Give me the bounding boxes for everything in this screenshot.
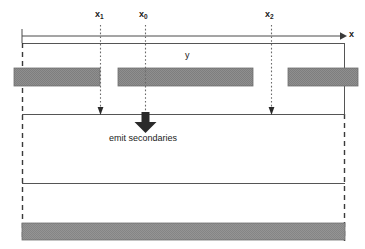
marker-x1-arrowhead [98,107,104,115]
emit-secondaries-arrow [135,112,157,133]
diagram-canvas: x1 x0 x2 x y emit secondaries [0,0,365,249]
marker-label-x1-subscript: 1 [100,13,104,20]
marker-x2-group [269,25,275,115]
marker-label-x2-subscript: 2 [270,13,274,20]
gray-bar-bottom [22,223,345,240]
y-axis-label: y [185,51,190,60]
gray-bar-left [14,68,100,86]
gray-bar-right [288,68,358,86]
x-axis-group [22,29,347,43]
gray-bars-group [14,68,358,240]
emit-secondaries-label: emit secondaries [109,134,177,143]
emit-arrow-head [135,122,157,133]
diagram-graphics [0,0,365,249]
marker-label-x0-subscript: 0 [144,13,148,20]
marker-label-x1: x1 [95,10,104,19]
marker-label-x0: x0 [139,10,148,19]
x-axis-arrowhead [340,32,347,40]
marker-label-x2: x2 [265,10,274,19]
marker-x2-arrowhead [269,107,275,115]
gray-bar-middle [118,68,253,86]
x-axis-label: x [349,30,354,39]
